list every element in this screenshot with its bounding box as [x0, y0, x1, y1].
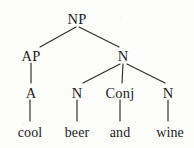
edge-np-to-n: [79, 27, 119, 47]
node-ap: AP: [22, 49, 41, 64]
node-n-beer: N: [72, 86, 83, 101]
edge-n-to-n-beer: [83, 64, 120, 83]
node-np: NP: [68, 12, 87, 27]
node-a: A: [26, 86, 37, 101]
node-conj: Conj: [106, 86, 135, 101]
node-n-wine: N: [163, 86, 174, 101]
syntax-tree-figure: NP AP N A N Conj N cool beer and wine: [0, 0, 194, 148]
node-n-bar: N: [118, 49, 129, 64]
edge-n-to-n-wine: [127, 64, 165, 83]
edge-n-to-conj: [122, 64, 123, 83]
leaf-cool: cool: [18, 126, 43, 140]
leaf-wine: wine: [156, 126, 184, 140]
leaf-and: and: [110, 126, 131, 140]
leaf-beer: beer: [65, 126, 90, 140]
edge-np-to-ap: [40, 27, 76, 47]
